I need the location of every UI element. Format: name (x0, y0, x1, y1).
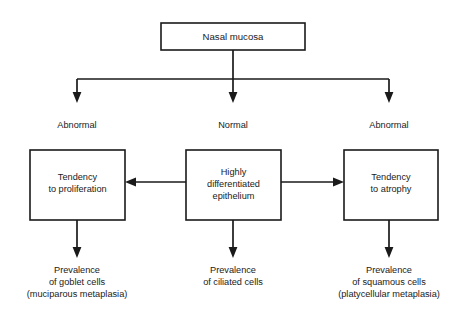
branch-arrow-center-icon (229, 92, 238, 103)
node-highly-differentiated-epithelium: Highly differentiated epithelium (186, 150, 281, 220)
outcome-goblet-line2: of goblet cells (49, 277, 106, 287)
tendency-proliferation-label-line2: to proliferation (48, 184, 106, 194)
arrow-center-to-right-head-icon (333, 178, 344, 187)
node-nasal-mucosa: Nasal mucosa (161, 23, 305, 50)
branch-label-left: Abnormal (57, 120, 96, 130)
outcome-ciliated-line1: Prevalence (210, 265, 256, 275)
tendency-atrophy-label-line1: Tendency (371, 172, 411, 182)
tendency-proliferation-label-line1: Tendency (58, 172, 98, 182)
arrow-right-outcome-head-icon (385, 247, 394, 258)
node-tendency-to-atrophy: Tendency to atrophy (344, 150, 438, 220)
nasal-mucosa-flowchart: Nasal mucosa Abnormal Normal Abnormal Te… (0, 0, 467, 313)
outcome-ciliated-line2: of ciliated cells (203, 277, 263, 287)
branch-label-right: Abnormal (369, 120, 408, 130)
outcome-squamous-line3: (platycellular metaplasia) (338, 289, 440, 299)
highly-differentiated-epithelium-label-line3: epithelium (213, 191, 255, 201)
highly-differentiated-epithelium-label-line2: differentiated (207, 179, 260, 189)
tendency-atrophy-label-line2: to atrophy (371, 184, 412, 194)
outcome-goblet-line3: (muciparous metaplasia) (27, 289, 128, 299)
arrow-center-to-left (125, 178, 186, 187)
arrow-left-outcome-head-icon (73, 247, 82, 258)
highly-differentiated-epithelium-label-line1: Highly (221, 167, 247, 177)
outcome-squamous-cells: Prevalence of squamous cells (platycellu… (338, 265, 440, 299)
node-tendency-to-proliferation: Tendency to proliferation (30, 150, 125, 220)
branch-arrow-left-icon (73, 92, 82, 103)
arrow-center-box-to-outcome (229, 220, 238, 258)
flowchart-container: Nasal mucosa Abnormal Normal Abnormal Te… (0, 0, 467, 313)
outcome-squamous-line1: Prevalence (366, 265, 412, 275)
branch-arrow-right-icon (385, 92, 394, 103)
arrow-left-box-to-outcome (73, 220, 82, 258)
outcome-goblet-cells: Prevalence of goblet cells (muciparous m… (27, 265, 128, 299)
branch-label-center: Normal (218, 120, 248, 130)
nasal-mucosa-label: Nasal mucosa (203, 31, 264, 42)
outcome-ciliated-cells: Prevalence of ciliated cells (203, 265, 263, 287)
outcome-goblet-line1: Prevalence (54, 265, 100, 275)
arrow-center-to-right (281, 178, 344, 187)
arrow-center-to-left-head-icon (125, 178, 136, 187)
root-branch-connector (73, 50, 394, 103)
outcome-squamous-line2: of squamous cells (352, 277, 426, 287)
arrow-center-outcome-head-icon (229, 247, 238, 258)
arrow-right-box-to-outcome (385, 220, 394, 258)
